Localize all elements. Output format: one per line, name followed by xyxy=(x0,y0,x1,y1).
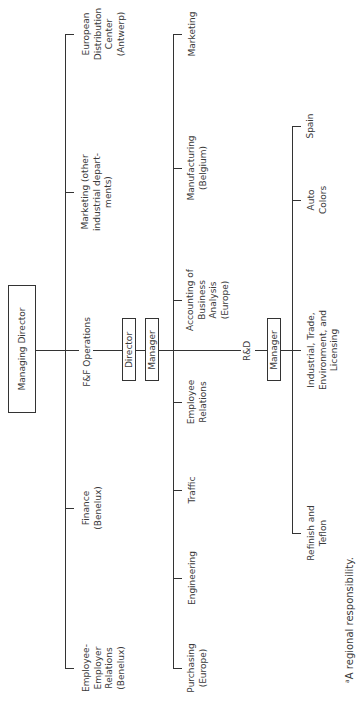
label-accounting-business-analysis: Accounting of Business Analysis (Europe) xyxy=(185,269,231,331)
managing-director-box: Managing Director xyxy=(8,285,36,413)
label-employee-relations: Employee Relations xyxy=(186,380,209,425)
tick-purchasing xyxy=(173,668,182,669)
footnote: aA regional responsibility. xyxy=(341,557,356,683)
tick-accounting xyxy=(173,300,182,301)
label-refinish-teflon: Refinish and Teflon xyxy=(306,505,329,560)
tick-engineering xyxy=(173,578,182,579)
tick-employee-relations xyxy=(173,402,182,403)
managing-director-label: Managing Director xyxy=(17,307,27,390)
label-auto-colors: Auto Colors xyxy=(306,186,329,214)
label-purchasing-europe: Purchasing (Europe) xyxy=(186,643,209,692)
label-spain: Spain xyxy=(305,113,317,138)
label-marketing-other: Marketing (other industrial depart- ment… xyxy=(80,153,115,231)
ff-director-box: Director xyxy=(122,318,136,381)
tick-manufacturing xyxy=(173,168,182,169)
rnd-manager-label: Manager xyxy=(269,330,279,369)
ff-director-label: Director xyxy=(124,331,134,367)
footnote-text: A regional responsibility. xyxy=(344,557,355,679)
footnote-marker: a xyxy=(343,679,350,683)
tick-marketing xyxy=(173,34,182,35)
connector-rnd-a xyxy=(173,350,241,351)
tick-spain xyxy=(292,126,301,127)
ff-manager-label: Manager xyxy=(147,330,157,369)
label-industrial-trade-environment-licensing: Industrial, Trade, Environment, and Lice… xyxy=(306,310,341,390)
tick-auto-colors xyxy=(292,200,301,201)
label-rnd: R&D xyxy=(242,341,254,361)
tick-finance xyxy=(65,508,74,509)
label-european-distribution-center: European Distribution Center (Antwerp) xyxy=(81,8,127,61)
label-traffic: Traffic xyxy=(187,476,199,503)
tick-marketing-other xyxy=(65,192,74,193)
tick-traffic xyxy=(173,490,182,491)
trunk-rnd xyxy=(292,126,293,534)
tick-european-distribution xyxy=(65,34,74,35)
label-marketing: Marketing xyxy=(187,12,199,57)
label-ff-operations: F&F Operations xyxy=(82,317,94,387)
ff-manager-box: Manager xyxy=(145,318,159,381)
tick-refinish-teflon xyxy=(292,533,301,534)
tick-employee-employer xyxy=(65,668,74,669)
label-employee-employer-relations: Employee- Employer Relations (Benelux) xyxy=(81,644,127,692)
label-finance-benelux: Finance (Benelux) xyxy=(81,486,104,530)
trunk-ff-operations xyxy=(173,34,174,669)
label-manufacturing-belgium: Manufacturing (Belgium) xyxy=(186,135,209,200)
connector-root xyxy=(36,350,79,351)
tick-industrial-trade xyxy=(292,350,301,351)
trunk-level1 xyxy=(65,34,66,669)
label-engineering: Engineering xyxy=(187,551,199,605)
rnd-manager-box: Manager xyxy=(267,318,281,381)
